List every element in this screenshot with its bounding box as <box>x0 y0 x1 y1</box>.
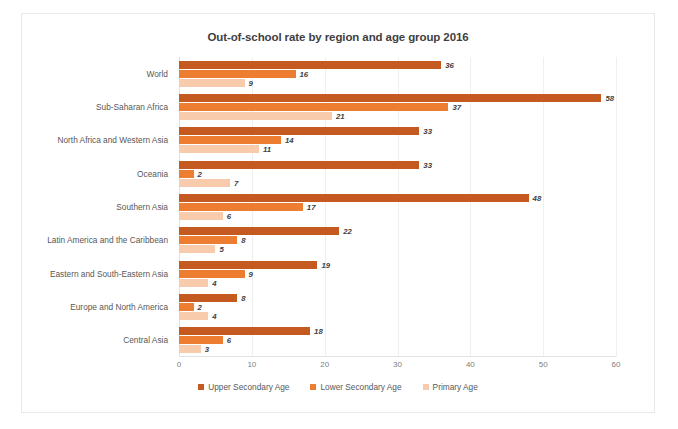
bar[interactable]: 36 <box>179 61 441 69</box>
bar-fill <box>179 270 245 278</box>
bar[interactable]: 5 <box>179 245 215 253</box>
category-row: North Africa and Western Asia331411 <box>179 124 616 157</box>
bar-fill <box>179 212 223 220</box>
bar-value-label: 4 <box>212 311 216 320</box>
bar[interactable]: 48 <box>179 194 529 202</box>
bar-value-label: 5 <box>219 245 223 254</box>
bar[interactable]: 21 <box>179 112 332 120</box>
bar-fill <box>179 70 296 78</box>
bar-fill <box>179 145 259 153</box>
bar-value-label: 4 <box>212 278 216 287</box>
chart-title: Out-of-school rate by region and age gro… <box>22 31 654 43</box>
bar-fill <box>179 103 448 111</box>
bar[interactable]: 6 <box>179 212 223 220</box>
bar-value-label: 8 <box>241 293 245 302</box>
bar-fill <box>179 79 245 87</box>
legend-item[interactable]: Upper Secondary Age <box>198 382 289 392</box>
bar[interactable]: 37 <box>179 103 448 111</box>
bar[interactable]: 7 <box>179 179 230 187</box>
bar-value-label: 19 <box>321 260 330 269</box>
bar-value-label: 17 <box>307 202 316 211</box>
legend-swatch-icon <box>310 384 316 390</box>
plot-area: World36169Sub-Saharan Africa583721North … <box>179 57 616 357</box>
bar[interactable]: 16 <box>179 70 296 78</box>
bar[interactable]: 22 <box>179 227 339 235</box>
x-tick-label: 0 <box>177 360 181 369</box>
bar[interactable]: 58 <box>179 94 601 102</box>
category-row: Oceania3327 <box>179 157 616 190</box>
bar[interactable]: 19 <box>179 261 317 269</box>
bar-fill <box>179 203 303 211</box>
bar[interactable]: 17 <box>179 203 303 211</box>
bar-value-label: 33 <box>423 160 432 169</box>
bar[interactable]: 2 <box>179 303 194 311</box>
x-tick-label: 40 <box>466 360 475 369</box>
bar[interactable]: 11 <box>179 145 259 153</box>
chart-legend: Upper Secondary AgeLower Secondary AgePr… <box>22 382 654 392</box>
bar[interactable]: 4 <box>179 279 208 287</box>
bar-value-label: 36 <box>445 60 454 69</box>
legend-label: Lower Secondary Age <box>320 382 401 392</box>
chart-card: Out-of-school rate by region and age gro… <box>21 13 655 413</box>
category-row: Southern Asia48176 <box>179 190 616 223</box>
bar-value-label: 14 <box>285 136 294 145</box>
bar[interactable]: 8 <box>179 236 237 244</box>
bar-value-label: 11 <box>263 145 271 154</box>
bar[interactable]: 33 <box>179 127 419 135</box>
category-label: Eastern and South-Eastern Asia <box>50 269 168 279</box>
x-tick-label: 50 <box>539 360 548 369</box>
legend-item[interactable]: Primary Age <box>423 382 478 392</box>
bar[interactable]: 9 <box>179 270 245 278</box>
bar-fill <box>179 94 601 102</box>
bar[interactable]: 8 <box>179 294 237 302</box>
bar-fill <box>179 303 194 311</box>
x-axis-tick-labels: 0102030405060 <box>179 360 616 374</box>
category-label: Sub-Saharan Africa <box>96 102 168 112</box>
bar-value-label: 16 <box>300 69 309 78</box>
bar-value-label: 9 <box>249 269 253 278</box>
bar[interactable]: 14 <box>179 136 281 144</box>
category-label: Europe and North America <box>70 302 168 312</box>
bar-value-label: 3 <box>205 345 209 354</box>
bar-fill <box>179 294 237 302</box>
bar-value-label: 18 <box>314 327 323 336</box>
legend-label: Upper Secondary Age <box>208 382 289 392</box>
bar-fill <box>179 345 201 353</box>
x-tick-label: 30 <box>393 360 402 369</box>
legend-label: Primary Age <box>433 382 478 392</box>
bar[interactable]: 4 <box>179 312 208 320</box>
category-label: North Africa and Western Asia <box>57 135 168 145</box>
legend-swatch-icon <box>198 384 204 390</box>
bar-fill <box>179 127 419 135</box>
bar-fill <box>179 161 419 169</box>
bar[interactable]: 9 <box>179 79 245 87</box>
legend-item[interactable]: Lower Secondary Age <box>310 382 401 392</box>
category-label: Southern Asia <box>116 202 168 212</box>
bar-fill <box>179 136 281 144</box>
bar[interactable]: 2 <box>179 170 194 178</box>
bar[interactable]: 33 <box>179 161 419 169</box>
bar-value-label: 58 <box>605 93 614 102</box>
bar-fill <box>179 194 529 202</box>
bar-fill <box>179 236 237 244</box>
bar[interactable]: 6 <box>179 336 223 344</box>
bar[interactable]: 3 <box>179 345 201 353</box>
category-row: Eastern and South-Eastern Asia1994 <box>179 257 616 290</box>
category-label: Central Asia <box>123 335 168 345</box>
bar-value-label: 48 <box>533 193 542 202</box>
legend-swatch-icon <box>423 384 429 390</box>
bar-value-label: 8 <box>241 236 245 245</box>
bar[interactable]: 18 <box>179 327 310 335</box>
bar-value-label: 33 <box>423 127 432 136</box>
x-tick-label: 10 <box>247 360 256 369</box>
bar-fill <box>179 179 230 187</box>
category-label: Oceania <box>137 169 168 179</box>
category-row: Central Asia1863 <box>179 324 616 357</box>
bar-fill <box>179 336 223 344</box>
bar-value-label: 7 <box>234 178 238 187</box>
category-row: World36169 <box>179 57 616 90</box>
category-row: Latin America and the Caribbean2285 <box>179 224 616 257</box>
category-row: Europe and North America824 <box>179 290 616 323</box>
bar-fill <box>179 61 441 69</box>
bar-fill <box>179 112 332 120</box>
